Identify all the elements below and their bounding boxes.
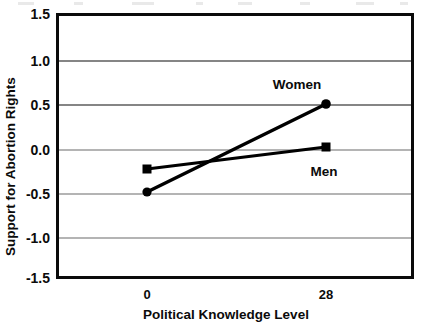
data-point-women-0 [142,187,151,196]
data-point-men-0 [143,165,152,174]
y-tick-label: 1.0 [10,54,50,68]
data-point-women-28 [321,99,331,109]
series-label-men: Men [296,165,352,179]
y-tick-label: 1.5 [10,7,50,21]
x-tick-label: 28 [306,288,346,301]
data-point-men-28 [322,143,331,152]
series-label-women: Women [251,78,343,92]
y-tick-label: -1.5 [6,271,50,285]
y-axis-title: Support for Abortion Rights [4,77,18,256]
x-axis-title: Political Knowledge Level [106,308,346,322]
chart-figure: 1.5 1.0 0.5 0.0 -0.5 -1.0 -1.5 0 28 Poli… [0,0,423,330]
chart-plot-area [0,0,423,330]
x-tick-label: 0 [127,288,167,301]
